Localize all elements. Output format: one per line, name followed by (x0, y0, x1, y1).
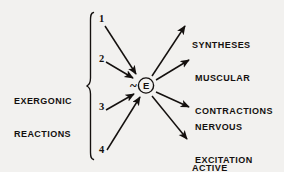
input-number-4: 4 (99, 144, 104, 155)
exergonic-reactions-label-line1: EXERGONIC (14, 96, 72, 107)
output-arrow-active-transport (152, 96, 187, 139)
output-label-active-transport: ACTIVE TRANSPORT (192, 141, 252, 172)
exergonic-brace (87, 13, 94, 160)
center-node-label: E (143, 81, 149, 91)
input-arrow-3 (106, 94, 134, 110)
output-label-active-transport-line1: ACTIVE (192, 163, 252, 172)
input-arrow-4 (107, 97, 140, 150)
output-label-nervous-excitation-line1: NERVOUS (195, 122, 253, 133)
exergonic-reactions-label-line2: REACTIONS (14, 129, 72, 140)
high-energy-bond-tilde: ~ (130, 79, 137, 92)
input-number-3: 3 (99, 101, 104, 112)
output-arrow-syntheses (152, 26, 185, 76)
input-number-2: 2 (99, 53, 104, 64)
output-arrow-nervous-excitation (156, 92, 189, 107)
figure-canvas: ~ E EXERGONIC REACTIONS 1 2 3 4 SYNTHESE… (0, 0, 284, 172)
input-number-1: 1 (99, 13, 104, 24)
output-label-syntheses-line1: SYNTHESES (192, 40, 251, 51)
exergonic-reactions-label: EXERGONIC REACTIONS (14, 74, 72, 162)
input-arrow-1 (105, 26, 136, 74)
output-label-muscular-contractions-line1: MUSCULAR (195, 73, 273, 84)
